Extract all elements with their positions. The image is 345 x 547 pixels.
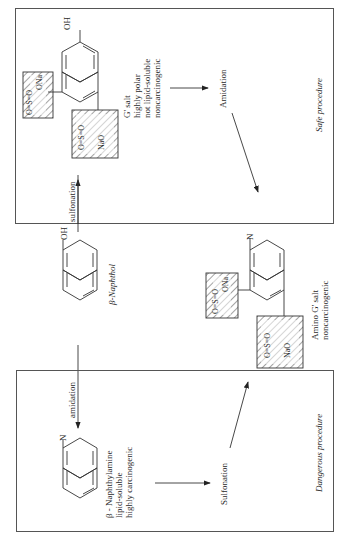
arrow-sulfonation-to-amino-g-salt — [230, 382, 248, 448]
sulfonate-2-line-1: O=S=O — [77, 125, 86, 150]
sulfonate-2-line-2: NaO — [97, 135, 106, 150]
g-salt-structure — [48, 30, 98, 110]
amino-g-salt-name: Amino G' salt — [310, 289, 320, 340]
sulfonate-1-line-1: O=S=O — [25, 90, 34, 115]
amino-sulfonate-1-line-1: O=S=O — [211, 289, 220, 314]
naphthol-oh-label: OH — [59, 227, 69, 240]
amino-sulfonate-1-line-2: ONa — [221, 276, 230, 292]
beta-naphthol-label: β-Naphthol — [107, 264, 117, 306]
naphthylamine-prop-2: highly carcinogenic — [124, 447, 134, 518]
safe-procedure-box: OH O=S=O ONa O=S=O NaO G' salt highly po… — [16, 9, 334, 224]
beta-naphthylamine-structure: N — [58, 434, 97, 498]
g-salt-name: G' salt — [122, 95, 132, 118]
naphthylamine-name: β - Naphthylamine — [104, 450, 114, 518]
g-salt-prop-2: not lipid-soluble — [142, 59, 152, 118]
amino-g-salt-prop: noncarcinogenic — [320, 281, 330, 340]
sulfonation-label: sulfonation — [67, 181, 77, 222]
amidation-step-label: Amidation — [218, 69, 228, 108]
diagram-canvas: OH O=S=O ONa O=S=O NaO G' salt highly po… — [0, 0, 345, 547]
safe-procedure-label: Safe procedure — [314, 78, 324, 132]
amidation-label: amidation — [67, 382, 77, 418]
beta-naphthol-structure: OH β-Naphthol — [59, 227, 117, 306]
dangerous-procedure-label: Dangerous procedure — [314, 414, 324, 493]
arrow-amidation-to-amino-g-salt — [232, 113, 258, 192]
oh-label: OH — [62, 17, 72, 30]
naphthylamine-prop-1: lipid-soluble — [114, 472, 124, 518]
amino-sulfonate-2-line-2: NaO — [283, 343, 292, 358]
amino-n-label: N — [245, 233, 255, 240]
dangerous-procedure-box: N β - Naphthylamine lipid-soluble highly… — [17, 371, 334, 532]
amino-sulfonate-2-line-1: O=S=O — [263, 333, 272, 358]
amino-g-salt-structure: N O=S=O ONa O=S=O NaO Amino G' salt nonc… — [206, 233, 330, 368]
central-connector: sulfonation amidation — [67, 175, 78, 428]
sulfonation-step-label: Sulfonation — [219, 463, 229, 505]
sulfonate-1-line-2: ONa — [35, 74, 44, 90]
g-salt-prop-1: highly polar — [132, 74, 142, 118]
g-salt-prop-3: noncarcinogenic — [152, 59, 162, 118]
naphthylamine-n-label: N — [58, 434, 68, 441]
